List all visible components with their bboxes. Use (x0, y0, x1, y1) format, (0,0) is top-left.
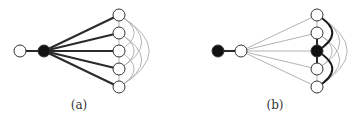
edge-thin (241, 15, 317, 51)
edge-thick (44, 51, 119, 87)
graph-node-white (113, 63, 125, 75)
graph-node-white (235, 45, 247, 57)
graph-node-white (311, 81, 323, 93)
edge-thick (44, 15, 119, 51)
edge-thin (241, 51, 317, 69)
graph-node-black (311, 45, 323, 57)
graph-node-black (212, 45, 224, 57)
edge-thick (44, 51, 119, 69)
edge-thin (241, 51, 317, 87)
graph-node-white (311, 9, 323, 21)
graph-node-white (113, 9, 125, 21)
graph-node-white (311, 27, 323, 39)
graph-diagram (0, 0, 353, 122)
graph-node-white (113, 81, 125, 93)
caption-a: (a) (71, 98, 88, 112)
edge-thick (44, 33, 119, 51)
caption-b: (b) (266, 98, 283, 112)
graph-node-black (38, 45, 50, 57)
graph-node-white (311, 63, 323, 75)
edge-thin (241, 33, 317, 51)
graph-node-white (14, 45, 26, 57)
graph-node-white (113, 27, 125, 39)
graph-node-white (113, 45, 125, 57)
